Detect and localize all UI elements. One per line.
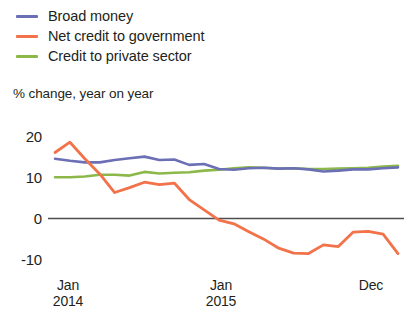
x-tick-month: Jan: [33, 277, 103, 293]
chart-figure: Broad money Net credit to government Cre…: [0, 0, 408, 319]
series-line-credit-to-private-sector: [55, 166, 398, 178]
x-tick-label-jan-2014: Jan 2014: [33, 277, 103, 309]
x-tick-month: Jan: [186, 277, 256, 293]
series-line-net-credit-to-government: [55, 142, 398, 253]
plot-area: [0, 0, 408, 319]
x-tick-label-jan-2015: Jan 2015: [186, 277, 256, 309]
series-line-broad-money: [55, 157, 398, 172]
x-tick-month: Dec: [336, 277, 406, 293]
x-tick-year: 2015: [186, 293, 256, 309]
x-tick-label-dec: Dec: [336, 277, 406, 293]
x-tick-year: 2014: [33, 293, 103, 309]
